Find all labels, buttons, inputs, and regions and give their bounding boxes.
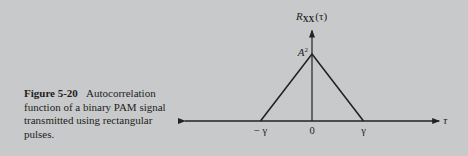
y-axis-label: RXX(τ) — [295, 10, 327, 24]
x-tick-label: − γ — [254, 125, 268, 136]
y-label-subscript: XX — [303, 15, 315, 24]
x-tick-label: γ — [360, 125, 366, 136]
x-axis-label: τ — [443, 114, 448, 126]
y-label-arg: (τ) — [315, 10, 327, 23]
x-tick-label: 0 — [309, 125, 314, 136]
autocorrelation-plot: − γ0γA2 τ RXX(τ) — [0, 0, 468, 156]
y-tick-label: A2 — [297, 46, 309, 58]
